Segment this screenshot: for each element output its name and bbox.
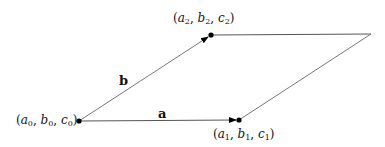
label-p1: (a1, b1, c1) [213, 128, 275, 142]
point-p2 [208, 32, 213, 37]
label-p2: (a2, b2, c2) [173, 12, 235, 26]
vector-a-label: a [158, 107, 166, 120]
parallelogram-diagram: (a0, b0, c0) (a2, b2, c2) (a1, b1, c1) b… [0, 0, 385, 147]
label-p0: (a0, b0, c0) [16, 114, 78, 128]
right-edge-line [239, 34, 371, 120]
vector-b-label: b [119, 74, 128, 87]
vector-b-line [79, 37, 208, 121]
top-edge-line [211, 34, 371, 35]
point-p1 [236, 117, 241, 122]
